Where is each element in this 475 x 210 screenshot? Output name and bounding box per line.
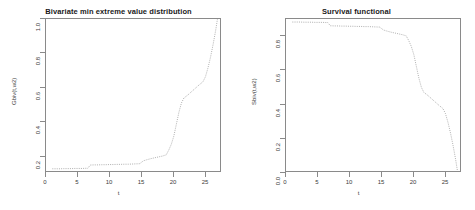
panel-survival-functional: Survival functional Sbiv(t,w2) 0.00.20.4… [238, 0, 475, 210]
y-tick-label: 0.4 [35, 121, 41, 139]
x-tick-label: 15 [133, 179, 149, 185]
y-tick-label: 0.8 [35, 52, 41, 70]
x-tick [381, 172, 382, 177]
y-tick-label: 0.2 [275, 138, 281, 156]
x-axis-title-left: t [0, 190, 237, 196]
x-tick-label: 5 [69, 179, 85, 185]
x-tick [445, 172, 446, 177]
y-tick-label: 0.6 [275, 69, 281, 87]
y-tick-label: 0.8 [275, 35, 281, 53]
x-tick [285, 172, 286, 177]
x-tick-label: 0 [37, 179, 53, 185]
x-tick [77, 172, 78, 177]
x-tick [45, 172, 46, 177]
x-tick-label: 10 [341, 179, 357, 185]
x-tick-label: 10 [101, 179, 117, 185]
y-tick-label: 0.2 [35, 156, 41, 174]
x-tick [173, 172, 174, 177]
x-tick [317, 172, 318, 177]
x-tick [349, 172, 350, 177]
x-tick-label: 25 [197, 179, 213, 185]
x-tick-label: 5 [309, 179, 325, 185]
x-tick [205, 172, 206, 177]
y-axis-title-left: Gbiv(t,w2) [11, 78, 17, 105]
x-axis-left: t 0510152025 [0, 172, 237, 210]
y-tick-label: 0.6 [35, 87, 41, 105]
x-tick [413, 172, 414, 177]
plot-area-left [45, 18, 221, 172]
x-tick-label: 0 [277, 179, 293, 185]
data-line-left [46, 19, 220, 171]
y-tick-label: 0.4 [275, 104, 281, 122]
panel-bivariate-distribution: Bivariate min extreme value distribution… [0, 0, 237, 210]
x-axis-title-right: t [240, 190, 475, 196]
x-tick-label: 20 [165, 179, 181, 185]
x-tick-label: 20 [405, 179, 421, 185]
y-tick-label: 1.0 [35, 18, 41, 36]
x-tick [109, 172, 110, 177]
x-tick-label: 15 [373, 179, 389, 185]
figure-container: Bivariate min extreme value distribution… [0, 0, 475, 210]
x-tick [141, 172, 142, 177]
x-axis-right: t 0510152025 [238, 172, 475, 210]
plot-area-right [285, 18, 461, 172]
data-line-right [286, 19, 460, 171]
y-axis-title-right: Sbiv(t,w2) [251, 78, 257, 105]
x-tick-label: 25 [437, 179, 453, 185]
